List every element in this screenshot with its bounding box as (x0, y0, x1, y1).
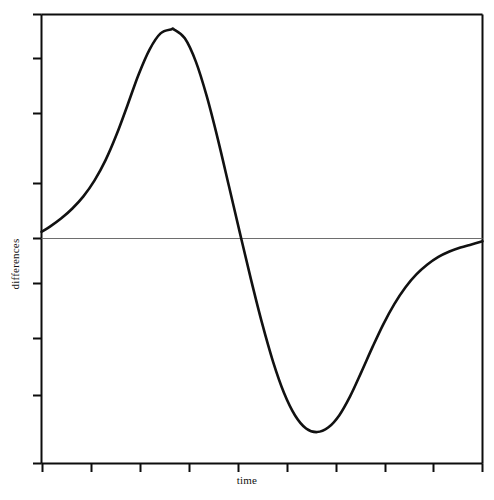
chart-figure: time differences (0, 0, 494, 500)
y-axis-label: differences (9, 209, 21, 319)
data-series-line (42, 28, 483, 432)
y-axis-label-container: differences (0, 0, 30, 500)
x-axis-ticks (43, 464, 483, 473)
x-axis-label: time (0, 474, 494, 486)
plot-area (0, 0, 494, 500)
y-axis-ticks (33, 15, 42, 464)
